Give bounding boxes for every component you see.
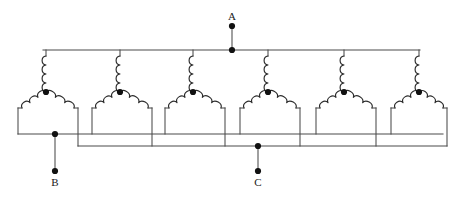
terminal-label-b: B xyxy=(51,176,58,188)
group-1-coil-vertical xyxy=(42,56,46,92)
group-3-coil-right xyxy=(193,91,221,108)
group-2-coil-vertical xyxy=(116,56,120,92)
group-3-coil-left xyxy=(169,91,193,108)
group-4-star-node xyxy=(265,89,271,95)
coils-layer xyxy=(22,56,444,108)
group-5-star-node xyxy=(341,89,347,95)
group-4-coil-left xyxy=(244,91,268,108)
terminal-b-bus-dot xyxy=(52,131,58,137)
group-2-star-node xyxy=(117,89,123,95)
terminal-a-bus-dot xyxy=(229,47,235,53)
winding-diagram: A B C xyxy=(0,0,462,199)
group-5-coil-vertical xyxy=(340,56,344,92)
group-6-coil-right xyxy=(419,91,443,108)
terminal-c-end-dot xyxy=(255,168,261,174)
group-3-star-node xyxy=(190,89,196,95)
group-5-coil-right xyxy=(344,91,372,108)
group-2-coil-right xyxy=(120,91,148,108)
group-6-coil-left xyxy=(395,91,419,108)
labels-layer: A B C xyxy=(51,10,261,188)
group-5-coil-left xyxy=(320,91,344,108)
group-1-coil-left xyxy=(22,91,46,108)
group-4-coil-vertical xyxy=(264,56,268,92)
group-6-star-node xyxy=(416,89,422,95)
terminal-c-bus-dot xyxy=(255,143,261,149)
terminal-b-end-dot xyxy=(52,168,58,174)
group-4-coil-right xyxy=(268,91,296,108)
group-6-coil-vertical xyxy=(415,56,419,92)
group-3-coil-vertical xyxy=(189,56,193,92)
group-2-coil-left xyxy=(96,91,120,108)
terminal-label-a: A xyxy=(228,10,236,22)
group-1-star-node xyxy=(43,89,49,95)
group-1-coil-right xyxy=(46,91,74,108)
terminal-label-c: C xyxy=(254,176,261,188)
circuit-schematic: A B C xyxy=(0,0,462,199)
terminal-a-end-dot xyxy=(229,23,235,29)
